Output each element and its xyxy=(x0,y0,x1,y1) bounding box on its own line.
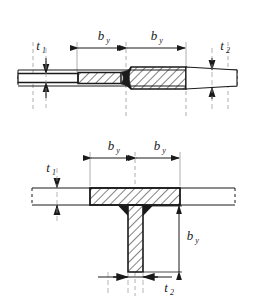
dim-label-by-right: b xyxy=(154,138,161,153)
welded-joint-diagram: b y b y t 1 xyxy=(0,0,271,300)
web-plate-section xyxy=(128,205,143,272)
dim-label-by-right-sub: y xyxy=(158,36,163,45)
dim-label-t1-sub: 1 xyxy=(52,168,56,177)
dim-label-t2: t xyxy=(164,280,168,295)
dim-label-t2-sub: 2 xyxy=(226,46,230,55)
dim-label-by-left-sub: y xyxy=(115,146,120,155)
dim-label-t2-sub: 2 xyxy=(170,288,174,297)
dim-label-by-left-sub: y xyxy=(105,36,110,45)
dim-label-by-right-sub: y xyxy=(161,146,166,155)
dim-label-by-left: b xyxy=(98,28,105,43)
left-thin-plate xyxy=(18,74,78,83)
flange-plate-section xyxy=(90,188,180,205)
dim-label-t2: t xyxy=(220,38,224,53)
dim-label-t1-sub: 1 xyxy=(42,46,46,55)
dim-label-by-left: b xyxy=(108,138,115,153)
right-thick-plate-section-hatched xyxy=(125,67,186,89)
right-plate-continuation xyxy=(186,67,237,89)
dim-label-t1: t xyxy=(46,160,50,175)
dim-label-by-vertical: b xyxy=(187,228,194,243)
dim-label-by-vertical-sub: y xyxy=(194,236,199,245)
dim-label-by-right: b xyxy=(151,28,158,43)
left-plate-section-hatched xyxy=(78,73,121,84)
figure-root: b y b y t 1 xyxy=(0,0,271,300)
dim-label-t1: t xyxy=(36,38,40,53)
